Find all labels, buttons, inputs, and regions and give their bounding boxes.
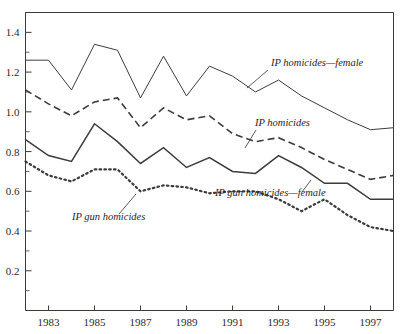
y-tick-label: 0.2	[6, 265, 20, 277]
x-tick-label: 1989	[176, 316, 199, 328]
series-label: IP homicides—female	[270, 57, 364, 68]
y-tick-label: 1.0	[6, 106, 20, 118]
y-tick-label: 1.4	[6, 26, 20, 38]
y-tick-label: 0.6	[6, 185, 20, 197]
series-label: IP homicides	[254, 117, 310, 128]
x-tick-label: 1987	[130, 316, 153, 328]
chart-figure: 0.20.40.60.81.01.21.4 198319851987198919…	[0, 0, 411, 334]
x-tick-label: 1995	[314, 316, 337, 328]
chart-background	[0, 0, 411, 334]
y-tick-label: 0.4	[6, 225, 20, 237]
series-label: IP gun homicides—female	[214, 187, 326, 198]
x-tick-label: 1991	[222, 316, 244, 328]
x-tick-label: 1985	[84, 316, 107, 328]
y-tick-label: 0.8	[6, 146, 20, 158]
x-tick-label: 1993	[268, 316, 291, 328]
y-tick-label: 1.2	[6, 66, 20, 78]
x-tick-label: 1983	[38, 316, 61, 328]
series-label: IP gun homicides	[71, 211, 145, 222]
line-chart-canvas: 0.20.40.60.81.01.21.4 198319851987198919…	[0, 0, 411, 334]
x-tick-label: 1997	[360, 316, 383, 328]
